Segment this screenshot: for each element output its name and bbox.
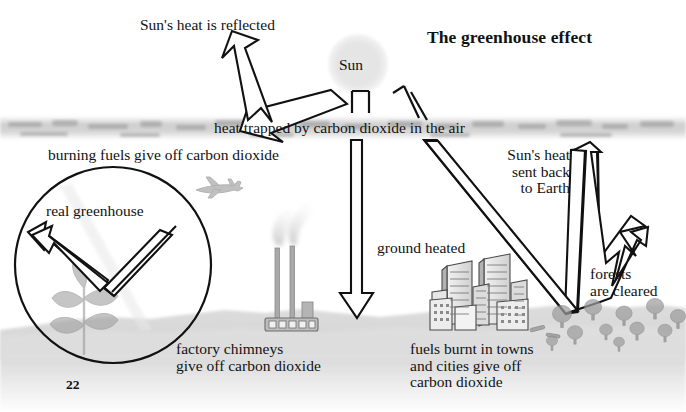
label-real-greenhouse: real greenhouse [46,203,144,220]
airplane-icon [196,177,243,198]
label-forests-cleared: forests are cleared [590,266,658,299]
trapped-heat-marks [352,86,427,120]
label-factory-chimneys: factory chimneys give off carbon dioxide [176,341,321,374]
factory-icon [265,204,318,331]
label-fuels-burnt-towns: fuels burnt in towns and cities give off… [410,341,534,391]
label-ground-heated: ground heated [377,240,465,257]
label-burning-fuels: burning fuels give off carbon dioxide [48,147,279,164]
arrow-greenhouse-trapped [28,222,172,296]
greenhouse-effect-diagram: Sun's heat is reflected The greenhouse e… [0,0,686,412]
label-atmosphere: heat trapped by carbon dioxide in the ai… [214,120,465,137]
page-number: 22 [66,378,80,393]
arrow-ground-heated-down [340,140,373,318]
label-suns-heat-reflected: Sun's heat is reflected [140,17,275,34]
label-sun: Sun [339,57,363,74]
label-suns-heat-sent-back: Sun's heat sent back to Earth [470,147,570,197]
page-title: The greenhouse effect [427,28,592,47]
